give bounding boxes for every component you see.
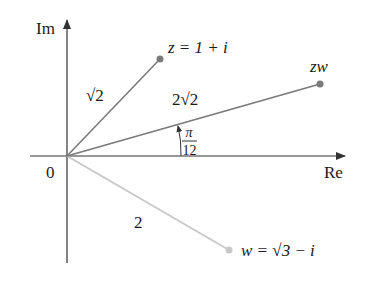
point-z [157,56,164,63]
origin-label: 0 [46,163,55,182]
angle-denominator: 12 [183,143,197,158]
imaginary-axis-label: Im [36,19,55,38]
real-axis-label: Re [324,163,343,182]
angle-arc [178,126,181,156]
vector-w [67,156,229,250]
label-z: z = 1 + i [167,38,228,57]
label-zw: zw [309,57,329,76]
modulus-z: √2 [86,86,104,105]
point-zw [317,81,324,88]
vector-z [67,59,160,156]
label-w: w = √3 − i [241,241,315,260]
point-w [226,247,233,254]
complex-plane-diagram: Im Re 0 π 12 z = 1 + i zw w = √3 − i √2 … [0,0,367,281]
modulus-w: 2 [134,213,143,232]
angle-numerator: π [185,125,193,140]
modulus-zw: 2√2 [172,90,198,109]
